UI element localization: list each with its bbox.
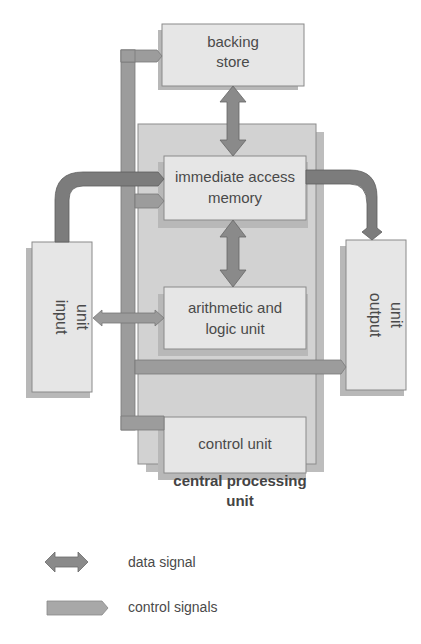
output-line1: output xyxy=(367,293,384,338)
memory-line1: immediate access xyxy=(175,168,295,185)
cpu-line2: unit xyxy=(226,492,254,509)
diagram-canvas: backing store immediate access memory ar… xyxy=(0,0,421,644)
input-line2: unit xyxy=(74,304,91,330)
alu-line2: logic unit xyxy=(205,320,265,337)
control-unit-label: control unit xyxy=(198,435,272,452)
backing-store-line1: backing xyxy=(207,33,259,50)
legend: data signal control signals xyxy=(45,552,218,615)
input-line1: input xyxy=(53,300,70,335)
cpu-line1: central processing xyxy=(173,472,306,489)
output-line2: unit xyxy=(388,302,405,328)
double-arrow-icon xyxy=(45,552,88,572)
legend-data-label: data signal xyxy=(128,554,196,570)
backing-store-line2: store xyxy=(216,53,249,70)
memory-line2: memory xyxy=(208,189,263,206)
single-arrow-icon xyxy=(47,601,108,615)
alu-line1: arithmetic and xyxy=(188,299,282,316)
legend-control-label: control signals xyxy=(128,599,218,615)
